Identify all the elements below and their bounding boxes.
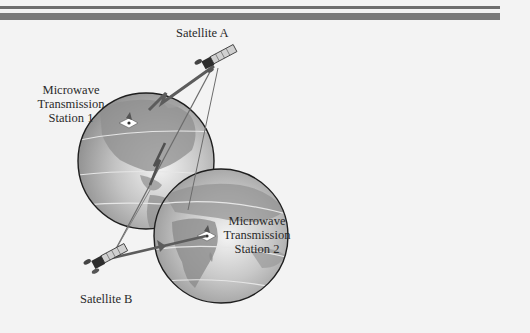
label-station-2: Microwave Transmission Station 2 — [218, 214, 296, 256]
label-station-1-line3: Station 1 — [28, 111, 114, 125]
satellite-diagram — [0, 0, 530, 333]
label-station-2-line3: Station 2 — [218, 242, 296, 256]
label-satellite-b: Satellite B — [80, 292, 132, 306]
label-station-1: Microwave Transmission Station 1 — [28, 83, 114, 125]
label-satellite-a: Satellite A — [176, 26, 228, 40]
label-station-1-line2: Transmission — [28, 97, 114, 111]
label-station-2-line1: Microwave — [218, 214, 296, 228]
label-station-2-line2: Transmission — [218, 228, 296, 242]
satellite-b-icon — [83, 241, 130, 276]
satellite-a-icon — [194, 42, 240, 77]
label-station-1-line1: Microwave — [28, 83, 114, 97]
